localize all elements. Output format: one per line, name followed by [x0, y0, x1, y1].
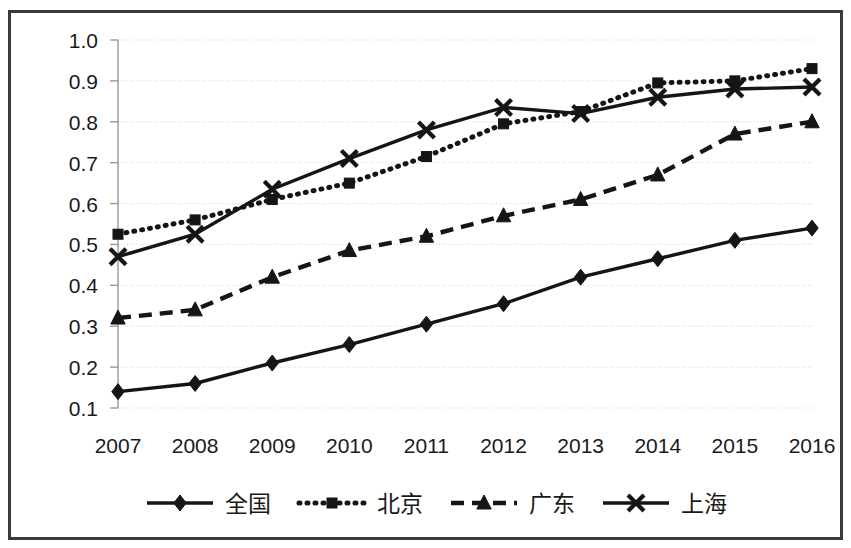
y-axis-tick-label: 0.9	[69, 70, 98, 93]
x-axis-tick-labels: 2007200820092010201120122013201420152016	[95, 434, 836, 457]
x-axis-tick-label: 2016	[789, 434, 836, 457]
y-axis-tick-label: 0.5	[69, 233, 98, 256]
triangle-marker	[265, 269, 279, 283]
diamond-marker	[729, 232, 741, 248]
x-axis-tick-label: 2012	[480, 434, 527, 457]
diamond-marker	[806, 220, 818, 236]
series-2	[111, 114, 819, 324]
square-marker	[190, 215, 200, 225]
y-axis-tick-label: 0.1	[69, 397, 98, 420]
series-line	[118, 87, 812, 257]
square-marker	[421, 152, 431, 162]
series-3	[110, 79, 820, 265]
square-marker	[327, 498, 337, 508]
legend-label-2: 广东	[529, 491, 575, 517]
x-axis-tick-label: 2008	[172, 434, 219, 457]
x-axis-tick-label: 2010	[326, 434, 373, 457]
legend-item-0[interactable]: 全国	[147, 491, 271, 517]
legend-item-1[interactable]: 北京	[299, 491, 423, 517]
diamond-marker	[174, 495, 186, 511]
y-axis-tick-label: 0.3	[69, 315, 98, 338]
diamond-marker	[112, 384, 124, 400]
diamond-marker	[652, 251, 664, 267]
y-axis-tick-labels: 1.00.90.80.70.60.50.40.30.20.1	[69, 29, 99, 420]
y-axis-tick-label: 0.8	[69, 111, 98, 134]
series-line	[118, 228, 812, 392]
axis	[110, 40, 118, 408]
chart-figure: 1.00.90.80.70.60.50.40.30.20.1 200720082…	[0, 0, 851, 548]
y-axis-tick-label: 0.7	[69, 152, 98, 175]
legend-label-3: 上海	[681, 491, 727, 517]
square-marker	[344, 178, 354, 188]
legend-label-1: 北京	[377, 491, 423, 517]
x-axis-tick-label: 2007	[95, 434, 142, 457]
y-axis-tick-label: 1.0	[69, 29, 98, 52]
x-axis-tick-label: 2011	[404, 434, 449, 457]
square-marker	[499, 119, 509, 129]
y-axis-tick-label: 0.6	[69, 193, 98, 216]
square-marker	[267, 194, 277, 204]
x-axis-tick-label: 2015	[712, 434, 759, 457]
diamond-marker	[420, 316, 432, 332]
x-axis-tick-label: 2009	[249, 434, 296, 457]
square-marker	[653, 78, 663, 88]
diamond-marker	[343, 337, 355, 353]
legend-item-2[interactable]: 广东	[451, 491, 575, 517]
diamond-marker	[497, 296, 509, 312]
diamond-marker	[189, 375, 201, 391]
data-series	[110, 64, 820, 400]
x-axis-tick-label: 2014	[634, 434, 681, 457]
triangle-marker	[651, 167, 665, 181]
legend-item-3[interactable]: 上海	[603, 491, 727, 517]
square-marker	[113, 229, 123, 239]
series-0	[112, 220, 818, 400]
square-marker	[807, 64, 817, 74]
x-axis-tick-label: 2013	[557, 434, 604, 457]
legend-label-0: 全国	[225, 491, 271, 517]
line-chart: 1.00.90.80.70.60.50.40.30.20.1 200720082…	[0, 0, 851, 548]
chart-legend: 全国北京广东上海	[147, 491, 727, 517]
diamond-marker	[266, 355, 278, 371]
cross-marker	[341, 151, 357, 167]
diamond-marker	[574, 269, 586, 285]
y-axis-tick-label: 0.4	[69, 274, 99, 297]
y-axis-tick-label: 0.2	[69, 356, 98, 379]
triangle-marker	[342, 243, 356, 257]
